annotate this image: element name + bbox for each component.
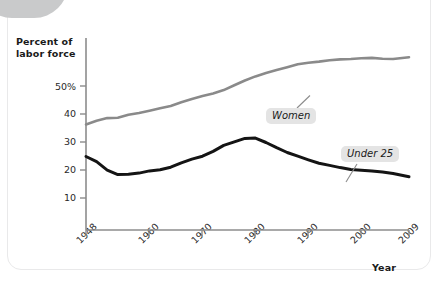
y-tick-marks — [80, 86, 86, 198]
series-label-under25: Under 25 — [341, 146, 399, 162]
series-label-women: Women — [266, 108, 316, 124]
leader-line-women — [297, 96, 310, 109]
line-chart: Percent of labor force 50% 40 30 20 10 1… — [0, 0, 437, 288]
series-line-women — [86, 57, 409, 124]
chart-canvas — [0, 0, 437, 288]
figure-card: Percent of labor force 50% 40 30 20 10 1… — [0, 0, 437, 288]
leader-line-under25 — [346, 164, 357, 182]
x-tick-marks — [86, 230, 409, 236]
